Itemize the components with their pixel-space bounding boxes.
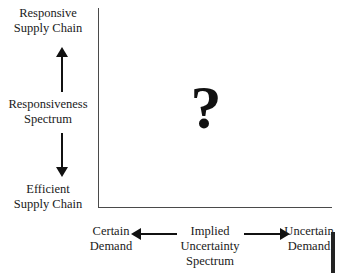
edge-artifact-bar [331,232,335,273]
question-mark: ? [186,76,226,138]
label-efficient-supply-chain-line1: Efficient [0,182,96,197]
label-responsive-supply-chain-line1: Responsive [0,6,96,21]
label-certain-demand-line1: Certain [80,224,142,239]
arrow-left-shaft-icon [140,233,177,235]
label-efficient-supply-chain-line2: Supply Chain [0,197,96,212]
label-responsiveness-spectrum: Responsiveness Spectrum [0,97,96,127]
label-responsive-supply-chain: Responsive Supply Chain [0,6,96,36]
label-certain-demand: Certain Demand [80,224,142,254]
label-implied-uncertainty-spectrum-line3: Spectrum [177,254,243,269]
label-responsiveness-spectrum-line1: Responsiveness [0,97,96,112]
label-implied-uncertainty-spectrum-line2: Uncertainty [177,239,243,254]
label-implied-uncertainty-spectrum: Implied Uncertainty Spectrum [177,224,243,269]
label-responsiveness-spectrum-line2: Spectrum [0,112,96,127]
vertical-axis-line [98,8,99,208]
horizontal-axis-line [98,207,332,208]
arrow-up-shaft-icon [61,56,63,92]
arrow-right-shaft-icon [244,233,281,235]
label-implied-uncertainty-spectrum-line1: Implied [177,224,243,239]
label-efficient-supply-chain: Efficient Supply Chain [0,182,96,212]
label-responsive-supply-chain-line2: Supply Chain [0,21,96,36]
arrow-down-shaft-icon [61,133,63,169]
diagram-canvas: Responsive Supply Chain Responsiveness S… [0,0,340,273]
label-certain-demand-line2: Demand [80,239,142,254]
arrow-down-head-icon [56,167,68,177]
